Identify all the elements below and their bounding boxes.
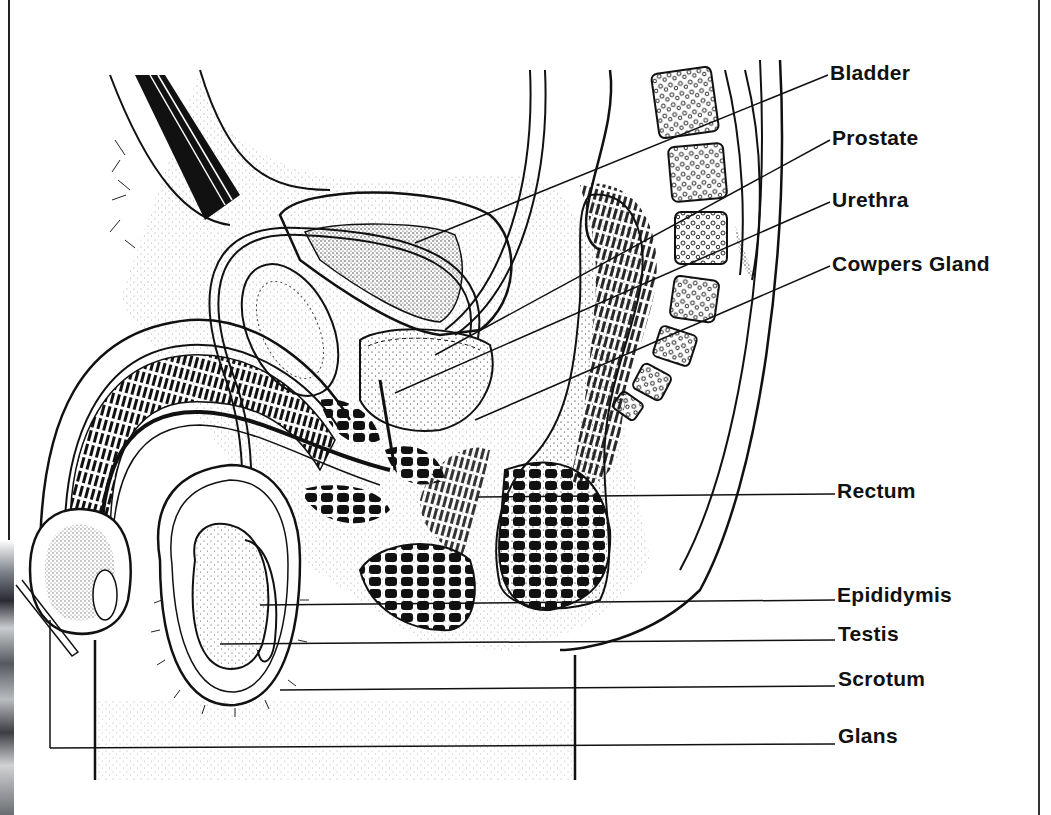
label-cowpers-gland: Cowpers Gland xyxy=(832,253,990,274)
label-glans: Glans xyxy=(838,725,898,746)
anatomy-illustration xyxy=(0,0,1051,815)
label-epididymis: Epididymis xyxy=(837,584,952,605)
label-prostate: Prostate xyxy=(832,127,918,148)
label-scrotum: Scrotum xyxy=(838,668,925,689)
label-rectum: Rectum xyxy=(837,480,916,501)
label-testis: Testis xyxy=(838,623,899,644)
label-urethra: Urethra xyxy=(832,189,909,210)
label-bladder: Bladder xyxy=(830,62,910,83)
